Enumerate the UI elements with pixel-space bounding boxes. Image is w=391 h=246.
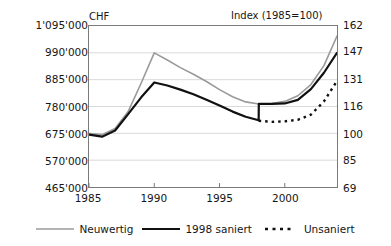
y-axis-tick-label: 780'000 (45, 101, 88, 113)
series-line-unsaniert (259, 81, 337, 122)
secondary-y-axis-title: Index (1985=100) (231, 10, 322, 21)
x-axis-tick-label: 2000 (272, 192, 299, 204)
chart-legend: Neuwertig1998 saniertUnsaniert (0, 219, 391, 239)
y-axis-tick-label: 570'000 (45, 155, 88, 167)
x-axis-tick-label: 1990 (140, 192, 167, 204)
chart-figure: CHF Index (1985=100) 465'000570'000675'0… (0, 0, 391, 246)
x-axis-tick-label: 1995 (206, 192, 233, 204)
y-axis-tick-label: 675'000 (45, 128, 88, 140)
x-axis-tick-label: 1985 (75, 192, 102, 204)
legend-item: Unsaniert (261, 223, 355, 235)
secondary-y-axis-tick-label: 85 (343, 154, 356, 166)
secondary-y-axis-tick-label: 162 (343, 19, 363, 31)
line-solid-gray-swatch (36, 224, 74, 234)
secondary-y-axis-tick-label: 69 (343, 182, 356, 194)
secondary-y-axis-tick-label: 116 (343, 100, 363, 112)
y-axis-tick-label: 990'000 (45, 46, 88, 58)
legend-label: Unsaniert (304, 223, 355, 235)
plot-area (88, 25, 338, 188)
secondary-y-axis-tick-label: 100 (343, 128, 363, 140)
secondary-y-axis-tick-label: 147 (343, 45, 363, 57)
y-axis-title: CHF (89, 11, 109, 22)
line-dashed-black-swatch (261, 224, 299, 234)
legend-label: 1998 saniert (185, 223, 251, 235)
legend-label: Neuwertig (79, 223, 133, 235)
legend-item: Neuwertig (36, 223, 133, 235)
secondary-y-axis-tick-label: 131 (343, 73, 363, 85)
line-solid-black-swatch (142, 224, 180, 234)
y-axis-tick-label: 885'000 (45, 73, 88, 85)
y-axis-tick-label: 1'095'000 (35, 19, 88, 31)
plot-svg (89, 26, 337, 187)
legend-item: 1998 saniert (142, 223, 251, 235)
